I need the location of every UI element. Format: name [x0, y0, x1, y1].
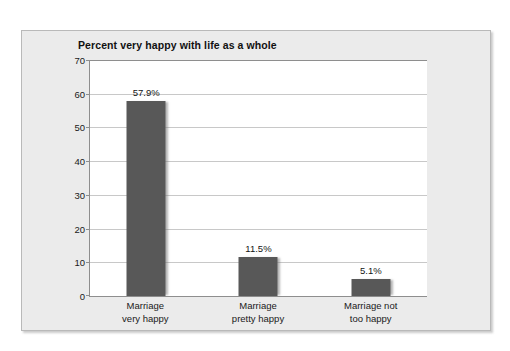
x-axis-labels: Marriagevery happyMarriagepretty happyMa…: [89, 300, 427, 332]
bar[interactable]: [351, 279, 390, 296]
bar-group: 57.9%: [90, 60, 202, 296]
x-axis-category-line: too happy: [314, 313, 427, 326]
bar-group: 11.5%: [202, 60, 314, 296]
chart-panel: Percent very happy with life as a whole …: [21, 30, 491, 331]
y-axis-label: 50: [45, 122, 85, 133]
y-axis-label: 70: [45, 55, 85, 66]
bar-value-label: 5.1%: [360, 265, 382, 276]
x-axis-category-line: very happy: [89, 313, 202, 326]
bar-group: 5.1%: [315, 60, 427, 296]
x-axis-category-label: Marriagepretty happy: [202, 300, 315, 332]
plot-area: 57.9%11.5%5.1%: [89, 60, 427, 297]
x-axis-category-line: Marriage: [89, 300, 202, 313]
y-axis-label: 30: [45, 189, 85, 200]
bar[interactable]: [127, 101, 166, 296]
x-axis-category-line: Marriage: [202, 300, 315, 313]
x-axis-category-line: Marriage not: [314, 300, 427, 313]
bar-value-label: 11.5%: [245, 243, 271, 254]
chart-title: Percent very happy with life as a whole: [78, 39, 277, 51]
y-axis-label: 40: [45, 156, 85, 167]
y-axis-labels: 706050403020100: [41, 60, 85, 296]
x-axis-category-label: Marriagevery happy: [89, 300, 202, 332]
bar-value-label: 57.9%: [133, 87, 160, 98]
x-axis-category-line: pretty happy: [202, 313, 315, 326]
x-axis-category-label: Marriage nottoo happy: [314, 300, 427, 332]
y-axis-label: 0: [45, 291, 85, 302]
y-axis-label: 20: [45, 223, 85, 234]
y-axis-label: 60: [45, 88, 85, 99]
y-axis-label: 10: [45, 257, 85, 268]
bar[interactable]: [239, 257, 278, 296]
